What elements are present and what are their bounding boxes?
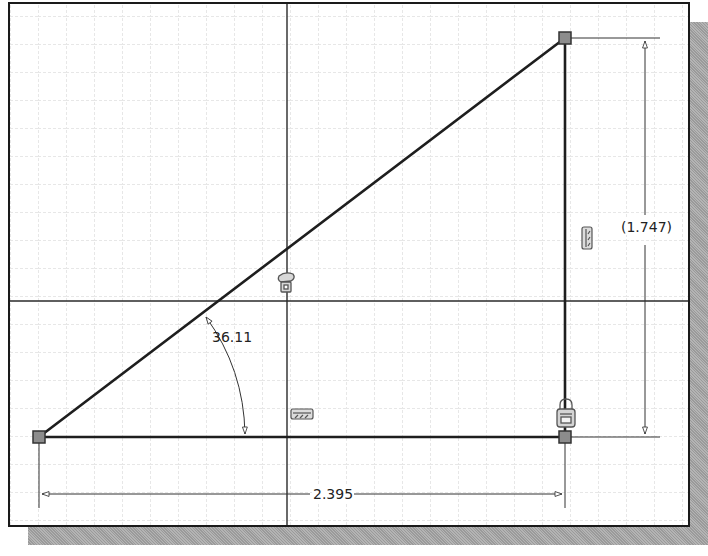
point-bottom-right[interactable] bbox=[559, 431, 571, 443]
point-bottom-left[interactable] bbox=[33, 431, 45, 443]
vertical-dimension-value[interactable]: (1.747) bbox=[620, 219, 673, 235]
vertical-constraint-icon[interactable] bbox=[582, 227, 592, 249]
sketch-graphics[interactable] bbox=[10, 4, 688, 525]
point-top-right[interactable] bbox=[559, 32, 571, 44]
horizontal-constraint-icon[interactable] bbox=[291, 409, 313, 419]
sketch-grid bbox=[10, 4, 688, 525]
horizontal-dimension-value[interactable]: 2.395 bbox=[312, 486, 354, 502]
angle-dimension-value[interactable]: 36.11 bbox=[211, 329, 253, 345]
sketch-canvas[interactable]: 2.395 (1.747) 36.11 bbox=[8, 2, 690, 527]
